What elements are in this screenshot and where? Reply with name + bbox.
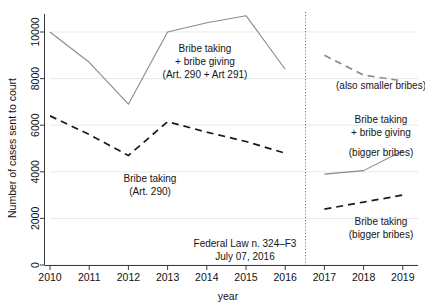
x-tick-label: 2010	[38, 271, 62, 283]
x-tick-label: 2011	[78, 271, 101, 283]
annotation-line: (also smaller bribes)	[336, 80, 425, 91]
annotation-line: (bigger bribes)	[349, 229, 413, 240]
x-tick-label: 2015	[234, 271, 258, 283]
annotation-line: (bigger bribes)	[349, 147, 413, 158]
annotation-line: Bribe taking	[124, 173, 177, 184]
annotation-line: Bribe taking	[355, 114, 408, 125]
federal-law-caption-line: Federal Law n. 324–F3	[194, 238, 297, 249]
annotation-line: + bribe giving	[175, 56, 235, 67]
y-tick-label: 8000	[29, 67, 41, 91]
x-tick-label: 2014	[195, 271, 219, 283]
annotation-bigger-bribes-both: Bribe taking + bribe giving (bigger brib…	[349, 114, 413, 158]
y-tick-label: 0	[29, 262, 41, 268]
chart-container: 0 2000 4000 6000 8000 10000 Number of ca…	[0, 0, 425, 308]
x-tick-label: 2012	[117, 271, 141, 283]
x-axis-title: year	[218, 290, 239, 302]
annotation-also-smaller-bribes: (also smaller bribes)	[336, 80, 425, 91]
annotation-line: (Art. 290 + Art 291)	[163, 69, 248, 80]
y-tick-label: 4000	[29, 160, 41, 184]
y-tick-label: 6000	[29, 113, 41, 137]
annotation-line: Bribe taking	[179, 43, 232, 54]
federal-law-caption-line: July 07, 2016	[215, 251, 275, 262]
annotation-line: Bribe taking	[355, 216, 408, 227]
y-tick-label: 10000	[29, 17, 41, 46]
y-axis-title: Number of cases sent to court	[6, 78, 18, 218]
y-tick-label: 2000	[29, 207, 41, 231]
x-tick-label: 2016	[274, 271, 298, 283]
x-tick-label: 2013	[156, 271, 180, 283]
x-tick-label: 2019	[391, 271, 415, 283]
x-tick-label: 2018	[352, 271, 376, 283]
line-chart-plot: 0 2000 4000 6000 8000 10000 Number of ca…	[0, 0, 425, 308]
annotation-line: + bribe giving	[351, 127, 411, 138]
annotation-line: (Art. 290)	[129, 186, 171, 197]
x-tick-label: 2017	[313, 271, 337, 283]
